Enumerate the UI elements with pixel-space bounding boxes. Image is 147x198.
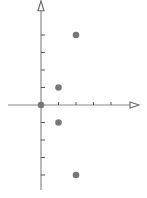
axes xyxy=(8,1,139,190)
data-point xyxy=(73,172,80,179)
x-axis-arrow-icon xyxy=(130,102,139,108)
data-point xyxy=(38,102,45,109)
data-point xyxy=(73,32,80,39)
data-point xyxy=(55,84,62,91)
data-point xyxy=(55,119,62,126)
scatter-plot xyxy=(0,0,147,198)
y-axis-arrow-icon xyxy=(38,1,44,11)
